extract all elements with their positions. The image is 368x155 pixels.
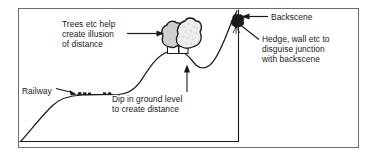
leader-hedge (241, 26, 259, 40)
leader-trees (127, 30, 164, 36)
leader-railway (56, 89, 77, 96)
annotation-trees: Trees etc help create illusion of distan… (62, 19, 115, 50)
annotation-railway: Railway (22, 86, 52, 96)
railway-track-marks (77, 92, 113, 95)
terrain-profile-line (21, 11, 237, 141)
diagram-canvas: Trees etc help create illusion of distan… (0, 0, 368, 155)
trees-group (162, 18, 202, 54)
leader-dip (184, 65, 190, 93)
hedge-at-backscene-junction (231, 14, 244, 34)
annotation-backscene: Backscene (271, 12, 312, 22)
annotation-hedge: Hedge, wall etc to disguise junction wit… (262, 34, 329, 65)
annotation-dip: Dip in ground level to create distance (112, 94, 182, 114)
scene-illustration (0, 0, 368, 155)
leader-backscene (242, 13, 269, 19)
inner-baseline-and-backscene-line (20, 10, 239, 142)
